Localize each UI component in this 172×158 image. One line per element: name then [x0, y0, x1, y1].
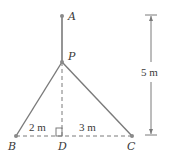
label-P: P: [67, 50, 76, 63]
arrow-up-icon: [149, 16, 153, 21]
point-A: [60, 14, 64, 18]
right-angle-marker: [56, 128, 62, 136]
label-height: 5 m: [141, 66, 158, 78]
segment-PC: [62, 62, 132, 136]
label-A: A: [67, 10, 76, 23]
point-B: [14, 134, 18, 138]
label-D: D: [57, 140, 67, 153]
arrow-down-icon: [149, 129, 153, 134]
label-DC-length: 3 m: [79, 121, 96, 133]
point-C: [130, 134, 134, 138]
label-B: B: [7, 140, 16, 153]
label-C: C: [127, 140, 136, 153]
label-BD-length: 2 m: [29, 121, 46, 133]
geometry-diagram: A P B D C 2 m 3 m 5 m: [0, 0, 172, 158]
point-P: [60, 60, 64, 64]
